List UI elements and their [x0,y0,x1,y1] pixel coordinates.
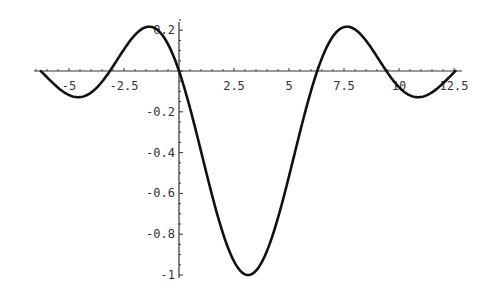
x-tick-label: 5 [285,79,292,93]
y-tick-label: -0.8 [146,227,175,241]
function-plot: -5-2.52.557.51012.5 0.2-0.2-0.4-0.6-0.8-… [0,0,489,301]
x-tick-label: 7.5 [333,79,355,93]
y-tick-label: -0.4 [146,146,175,160]
y-axis: 0.2-0.2-0.4-0.6-0.8-1 [146,20,183,282]
x-tick-label: -2.5 [110,79,139,93]
function-curve [41,27,456,275]
x-axis: -5-2.52.557.51012.5 [34,68,468,93]
y-tick-label: -0.6 [146,186,175,200]
y-tick-label: -1 [161,268,175,282]
y-tick-label: -0.2 [146,105,175,119]
x-tick-label: 2.5 [223,79,245,93]
